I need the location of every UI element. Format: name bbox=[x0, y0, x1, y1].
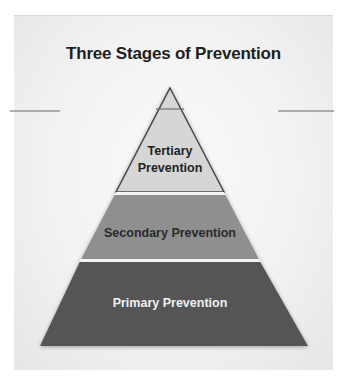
level-separator bbox=[80, 259, 261, 262]
pyramid-diagram bbox=[0, 0, 343, 378]
tertiary-label-line1: Tertiary bbox=[120, 143, 220, 160]
primary-label: Primary Prevention bbox=[80, 296, 260, 310]
tertiary-label: Tertiary Prevention bbox=[120, 143, 220, 177]
level-separator bbox=[115, 192, 226, 195]
tertiary-label-line2: Prevention bbox=[120, 160, 220, 177]
secondary-label: Secondary Prevention bbox=[90, 226, 250, 240]
